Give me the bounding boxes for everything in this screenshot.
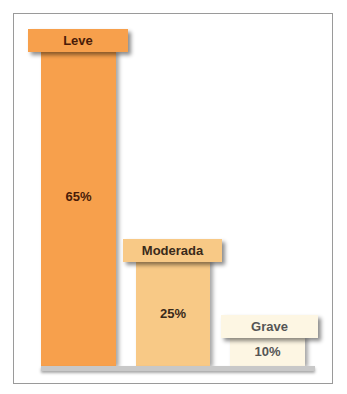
- bar-grave: 10%: [230, 338, 305, 367]
- bar-moderada-value: 25%: [136, 306, 210, 321]
- bar-moderada-label: Moderada: [123, 239, 222, 262]
- bar-leve-label: Leve: [28, 29, 128, 52]
- bar-grave-label: Grave: [221, 315, 318, 338]
- chart-baseline: [41, 366, 315, 371]
- bar-leve-value: 65%: [41, 189, 116, 204]
- bar-leve: 65%: [41, 52, 116, 367]
- bar-moderada: 25%: [136, 261, 210, 367]
- bar-grave-value: 10%: [230, 344, 305, 359]
